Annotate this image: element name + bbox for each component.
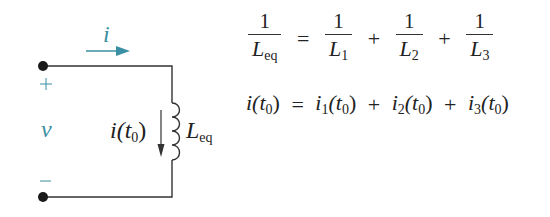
inductor-label: Leq [186,118,213,145]
top-wire [43,66,172,103]
positive-terminal [38,61,48,71]
initial-current-equation: i(t0) = i1(t0) + i2(t0) + i3(t0) [246,90,509,118]
current-arrow-icon [86,46,130,56]
term-1-fraction: 1 L1 [325,8,352,70]
equivalent-inductance-equation: 1 Leq = 1 L1 + 1 L2 + 1 L3 [244,8,497,70]
term-2-fraction: 1 L2 [396,8,423,70]
term-3-fraction: 1 L3 [466,8,493,70]
plus-sign-icon [40,78,52,90]
voltage-label: v [41,117,52,141]
inductor-coil-icon [172,103,180,160]
negative-terminal [38,192,48,202]
current-label: i [103,22,110,46]
lhs-fraction: 1 Leq [248,8,281,70]
circuit-diagram [0,0,240,217]
inductor-current-label: i(t0) [110,118,146,145]
bottom-wire [43,160,172,197]
inductor-current-arrow-icon [158,110,165,157]
